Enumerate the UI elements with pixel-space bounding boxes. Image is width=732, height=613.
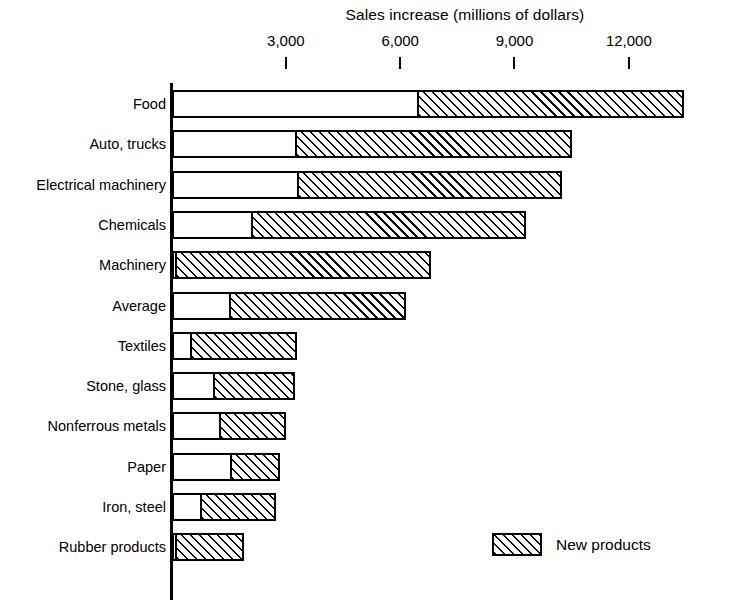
sales-increase-bar-chart: Sales increase (millions of dollars) 3,0… [0,0,732,613]
bar-row [172,130,572,158]
bar-row [172,453,281,481]
x-tick-label: 12,000 [606,32,652,49]
x-tick-mark [513,57,515,69]
bar-row [172,292,406,320]
bar-row [172,412,286,440]
category-label: Machinery [2,257,166,273]
x-tick-mark [285,57,287,69]
chart-title-text: Sales increase (millions of dollars) [346,6,585,24]
bar-segment-existing-products [172,292,231,320]
bar-segment-existing-products [172,90,420,118]
x-tick-label: 6,000 [381,32,419,49]
bar-row [172,251,431,279]
category-label: Electrical machinery [2,177,166,193]
x-tick-mark [399,57,401,69]
bar-segment-new-products [175,533,244,561]
legend-swatch-new-products [492,533,542,556]
bar-segment-existing-products [172,211,254,239]
bar-segment-existing-products [172,332,193,360]
bar-segment-new-products [219,412,286,440]
bar-row [172,211,526,239]
category-label: Nonferrous metals [2,418,166,434]
bar-row [172,372,296,400]
bar-row [172,533,244,561]
category-label: Chemicals [2,217,166,233]
legend-label-new-products: New products [556,536,651,554]
category-label: Food [2,96,166,112]
category-label: Average [2,298,166,314]
bar-segment-existing-products [172,372,216,400]
bar-segment-existing-products [172,171,300,199]
bar-segment-new-products [295,130,571,158]
x-tick-mark [628,57,630,69]
bar-row [172,332,298,360]
bar-segment-new-products [251,211,525,239]
bar-row [172,171,563,199]
bar-segment-new-products [297,171,562,199]
bar-segment-new-products [229,292,406,320]
category-label: Textiles [2,338,166,354]
x-tick-label: 9,000 [496,32,534,49]
category-label-group: FoodAuto, trucksElectrical machineryChem… [0,0,166,613]
category-label: Paper [2,459,166,475]
bar-segment-new-products [230,453,280,481]
bar-segment-new-products [213,372,295,400]
bar-segment-new-products [190,332,297,360]
category-label: Stone, glass [2,378,166,394]
legend: New products [492,533,651,556]
bar-segment-new-products [417,90,684,118]
bar-segment-existing-products [172,453,233,481]
bar-segment-new-products [200,493,276,521]
bar-segment-existing-products [172,130,298,158]
x-tick-label: 3,000 [267,32,305,49]
bar-segment-existing-products [172,412,222,440]
category-label: Iron, steel [2,499,166,515]
bar-segment-existing-products [172,493,202,521]
category-label: Rubber products [2,539,166,555]
bar-row [172,90,685,118]
bar-segment-new-products [175,251,430,279]
bar-row [172,493,277,521]
category-label: Auto, trucks [2,136,166,152]
